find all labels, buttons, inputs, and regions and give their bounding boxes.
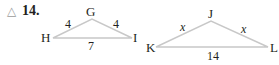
side-jl-length: x (241, 22, 246, 37)
vertex-i: I (133, 30, 137, 46)
side-jk-length: x (180, 20, 185, 35)
vertex-h: H (41, 30, 50, 46)
side-gh-length: 4 (65, 17, 71, 32)
side-kl-length: 14 (207, 49, 219, 64)
triangle-jkl (156, 21, 268, 47)
problem-number: 14. (22, 3, 40, 19)
vertex-g: G (86, 4, 95, 20)
side-gi-length: 4 (113, 17, 119, 32)
triangle-icon: △ (7, 4, 16, 18)
vertex-k: K (146, 40, 155, 56)
vertex-j: J (208, 6, 213, 22)
side-hi-length: 7 (88, 39, 94, 54)
vertex-l: L (270, 40, 278, 56)
